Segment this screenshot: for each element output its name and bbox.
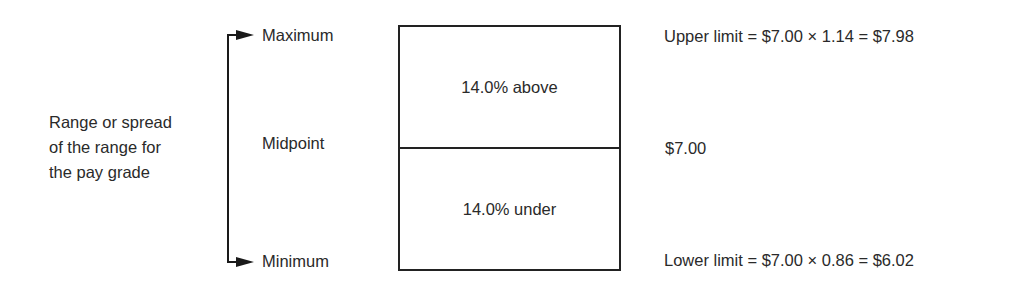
maximum-label: Maximum <box>262 25 334 45</box>
arrow-max-icon <box>236 30 254 40</box>
lower-half-label: 14.0% under <box>463 200 557 219</box>
range-label: Range or spread of the range for the pay… <box>49 110 172 185</box>
midpoint-label: Midpoint <box>262 133 324 153</box>
midpoint-value: $7.00 <box>665 138 706 158</box>
lower-limit-formula: Lower limit = $7.00 × 0.86 = $6.02 <box>664 250 914 270</box>
pay-range-box: 14.0% above 14.0% under <box>398 25 621 271</box>
lower-half: 14.0% under <box>400 149 619 269</box>
minimum-label: Minimum <box>262 251 329 271</box>
upper-half-label: 14.0% above <box>461 78 557 97</box>
upper-limit-formula: Upper limit = $7.00 × 1.14 = $7.98 <box>664 26 914 46</box>
bracket-line <box>228 35 241 262</box>
upper-half: 14.0% above <box>400 27 619 149</box>
arrow-min-icon <box>236 257 254 267</box>
